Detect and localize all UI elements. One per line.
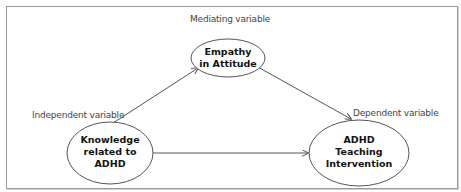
- mediating-variable-label: Mediating variable: [190, 14, 270, 24]
- independent-variable-label: Independent variable: [32, 110, 124, 120]
- dependent-variable-label: Dependent variable: [353, 108, 438, 118]
- node-mediator-text: Empathy in Attitude: [191, 46, 265, 70]
- node-dependent-text: ADHD Teaching Intervention: [309, 134, 409, 170]
- node-independent-text: Knowledge related to ADHD: [67, 134, 153, 170]
- edge-mediator-to-dependent: [256, 66, 351, 119]
